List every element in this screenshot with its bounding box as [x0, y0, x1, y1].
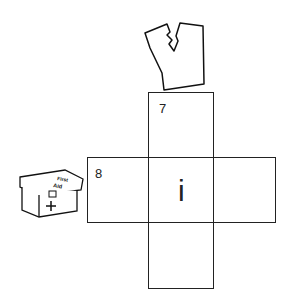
- face-bottom: [148, 222, 214, 289]
- face-right: [213, 157, 276, 223]
- torn-shirt-icon: [140, 18, 220, 93]
- face-left-number: 8: [95, 166, 102, 181]
- face-top: 7: [148, 92, 214, 158]
- face-left: 8: [87, 157, 149, 223]
- face-center: i: [148, 157, 214, 223]
- first-aid-kit-icon: First Aid: [15, 165, 85, 220]
- face-center-symbol: i: [178, 174, 185, 208]
- face-top-number: 7: [159, 101, 166, 116]
